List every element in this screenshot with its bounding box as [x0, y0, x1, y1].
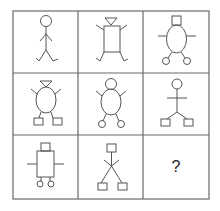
circle-foot-icon: [184, 58, 191, 65]
circle-foot-icon: [99, 121, 106, 128]
triangle-head-icon: [105, 18, 117, 25]
circle-foot-icon: [163, 58, 170, 65]
square-head-icon: [172, 16, 181, 25]
rectangle-body-icon: [104, 26, 120, 52]
square-foot-icon: [161, 119, 170, 126]
square-foot-icon: [118, 183, 127, 190]
figure-r3c1: [27, 143, 64, 187]
oval-body-icon: [36, 87, 56, 113]
circle-foot-icon: [37, 181, 43, 187]
figure-r1c1: [36, 16, 58, 62]
circle-foot-icon: [48, 181, 54, 187]
oval-body-icon: [101, 89, 121, 115]
figure-r2c2: [96, 79, 126, 128]
square-foot-icon: [53, 118, 62, 125]
square-head-icon: [41, 143, 50, 151]
circle-head-icon: [172, 79, 182, 89]
square-head-icon: [107, 144, 116, 152]
figure-r3c2: [98, 144, 127, 190]
circle-head-icon: [41, 16, 52, 27]
square-foot-icon: [184, 119, 193, 126]
figure-r2c1: [31, 81, 62, 125]
oval-body-icon: [167, 25, 187, 53]
circle-head-icon: [106, 79, 117, 90]
square-foot-icon: [98, 183, 107, 190]
missing-cell-question-mark: ?: [143, 135, 209, 199]
figure-r1c2: [96, 18, 128, 61]
triangle-head-icon: [40, 81, 52, 87]
rectangle-body-icon: [37, 151, 54, 177]
figure-r2c3: [161, 79, 193, 126]
square-foot-icon: [34, 118, 43, 125]
figure-r1c3: [158, 16, 196, 65]
circle-foot-icon: [118, 121, 125, 128]
